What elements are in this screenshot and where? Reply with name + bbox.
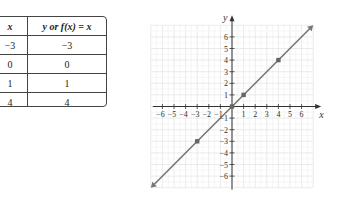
data-point xyxy=(241,93,245,97)
x-tick-label: 5 xyxy=(288,110,292,119)
x-tick-label: −4 xyxy=(179,110,188,119)
y-tick-label: −1 xyxy=(219,114,228,123)
y-tick-label: −2 xyxy=(219,126,228,135)
x-tick-label: 4 xyxy=(276,110,280,119)
y-tick-label: 3 xyxy=(224,68,228,77)
x-tick-label: 2 xyxy=(253,110,257,119)
x-tick-label: −2 xyxy=(203,110,212,119)
y-tick-label: 4 xyxy=(224,56,228,65)
x-tick-label: 1 xyxy=(242,110,246,119)
x-tick-label: 6 xyxy=(300,110,304,119)
y-tick-label: −6 xyxy=(219,172,228,181)
y-tick-label: 2 xyxy=(224,79,228,88)
y-tick-label: −3 xyxy=(219,137,228,146)
y-tick-label: −4 xyxy=(219,149,228,158)
data-point xyxy=(230,104,234,108)
coordinate-plot: −6−5−4−3−2−1123456654321−1−2−3−4−5−6xy xyxy=(0,0,339,203)
y-tick-label: 5 xyxy=(224,45,228,54)
x-tick-label: 3 xyxy=(265,110,269,119)
x-tick-label: −5 xyxy=(168,110,177,119)
y-axis-label: y xyxy=(222,12,228,23)
data-point xyxy=(195,139,199,143)
tick-labels: −6−5−4−3−2−1123456654321−1−2−3−4−5−6xy xyxy=(156,12,324,181)
y-tick-label: −5 xyxy=(219,161,228,170)
y-tick-label: 1 xyxy=(224,91,228,100)
y-tick-label: 6 xyxy=(224,33,228,42)
x-axis-label: x xyxy=(318,109,324,120)
x-tick-label: −6 xyxy=(156,110,165,119)
x-tick-label: −3 xyxy=(191,110,200,119)
y-axis-arrow-icon xyxy=(230,15,235,21)
data-point xyxy=(276,58,280,62)
